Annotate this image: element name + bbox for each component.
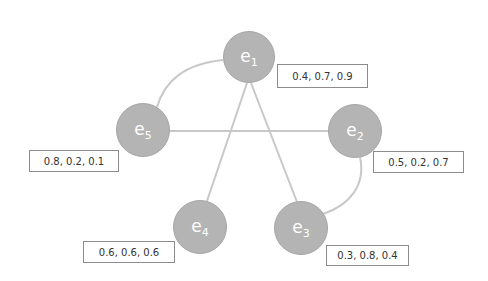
node-e3: e3 [274,201,328,255]
edge-e1-e3 [251,83,297,202]
node-e5: e5 [116,103,170,157]
node-label: e5 [134,119,151,142]
node-label: e4 [191,216,208,239]
node-label: e3 [292,217,309,240]
value-box-e5: 0.8, 0.2, 0.1 [29,150,119,172]
value-box-e3: 0.3, 0.8, 0.4 [326,245,409,266]
value-box-e1: 0.4, 0.7, 0.9 [277,64,368,88]
edge-e1-e4 [207,83,247,201]
edge-e1-e5 [157,60,223,107]
node-e4: e4 [173,200,227,254]
node-label: e1 [240,46,257,69]
node-label: e2 [346,120,363,143]
node-e2: e2 [328,104,382,158]
edge-e2-e3 [323,157,361,214]
value-box-e2: 0.5, 0.2, 0.7 [373,151,464,173]
node-e1: e1 [223,31,275,83]
value-box-e4: 0.6, 0.6, 0.6 [83,241,175,263]
